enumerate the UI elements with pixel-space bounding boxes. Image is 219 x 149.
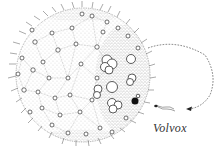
arrow-head-icon xyxy=(186,107,192,112)
dashed-arrow xyxy=(148,44,213,111)
figure-label: Volvox xyxy=(153,121,187,136)
flagellated-cell xyxy=(154,105,175,111)
volvox-figure: Volvox xyxy=(0,0,219,149)
reproductive-cell xyxy=(132,98,139,105)
